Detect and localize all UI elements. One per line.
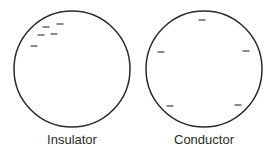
conductor-label: Conductor — [144, 132, 264, 147]
insulator-sphere — [14, 11, 130, 127]
insulator-circle — [14, 11, 130, 127]
insulator-label: Insulator — [12, 132, 132, 147]
conductor-sphere — [146, 11, 262, 127]
conductor-circle — [146, 11, 262, 127]
